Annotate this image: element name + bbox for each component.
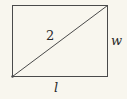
rectangle-diagram: 2 w l [0, 0, 127, 99]
diagonal-label: 2 [46, 28, 54, 43]
width-label: w [111, 33, 122, 48]
length-label: l [54, 80, 58, 95]
corner-dot [11, 75, 13, 77]
diagonal-line [13, 6, 108, 77]
